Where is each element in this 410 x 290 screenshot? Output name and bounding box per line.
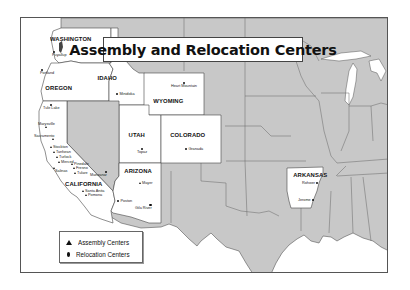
- site-marysville: Marysville: [38, 122, 55, 128]
- site-tanforan: Tanforan: [53, 150, 71, 154]
- site-fresno: Fresno: [73, 166, 88, 170]
- site-mayer: Mayer: [139, 181, 153, 185]
- relocation-dot-icon: [185, 148, 187, 150]
- site-stockton: Stockton: [50, 145, 68, 149]
- assembly-triangle-icon: [53, 151, 55, 153]
- site-tulare: Tulare: [74, 171, 88, 175]
- assembly-triangle-icon: [52, 138, 54, 140]
- site-granada: Granada: [185, 147, 203, 151]
- site-tule-lake: Tule Lake: [43, 104, 60, 110]
- site-rohwer: Rohwer: [302, 181, 318, 185]
- relocation-dot-icon: [117, 200, 119, 202]
- state-label-washington: WASHINGTON: [50, 36, 91, 42]
- state-label-utah: UTAH: [129, 132, 145, 138]
- assembly-triangle-icon: [50, 146, 52, 148]
- state-wyoming: [144, 73, 204, 115]
- assembly-triangle-icon: [45, 126, 47, 128]
- state-label-arizona: ARIZONA: [124, 168, 151, 174]
- state-label-california: CALIFORNIA: [65, 181, 102, 187]
- site-pomona: Pomona: [85, 193, 102, 197]
- state-label-wyoming: WYOMING: [153, 98, 183, 104]
- state-label-oregon: OREGON: [45, 85, 72, 91]
- assembly-triangle-icon: [74, 172, 76, 174]
- site-jerome: Jerome: [298, 198, 314, 202]
- state-label-colorado: COLORADO: [170, 132, 205, 138]
- site-sacramento: Sacramento: [34, 134, 54, 140]
- site-manzanar: Manzanar: [90, 171, 107, 177]
- relocation-dot-icon: [316, 182, 318, 184]
- map-title: Assembly and Relocation Centers: [69, 42, 337, 58]
- site-minidoka: Minidoka: [116, 92, 135, 96]
- site-turlock: Turlock: [56, 155, 71, 159]
- assembly-triangle-icon: [56, 156, 58, 158]
- state-oregon: [41, 61, 113, 101]
- assembly-triangle-icon: [85, 194, 87, 196]
- map-legend: Assembly Centers Relocation Centers: [59, 231, 143, 263]
- assembly-triangle-icon: [73, 167, 75, 169]
- legend-assembly-label: Assembly Centers: [78, 239, 129, 246]
- site-heart-mountain: Heart Mountain: [171, 82, 197, 88]
- assembly-triangle-icon: [71, 163, 73, 165]
- site-topaz: Topaz: [137, 148, 147, 154]
- legend-item-assembly: Assembly Centers: [66, 236, 136, 248]
- legend-item-relocation: Relocation Centers: [66, 248, 136, 260]
- site-salinas: Salinas: [53, 167, 67, 173]
- relocation-dot-icon: [116, 93, 118, 95]
- circle-icon: [67, 252, 71, 257]
- assembly-triangle-icon: [139, 182, 141, 184]
- relocation-dot-icon: [312, 199, 314, 201]
- site-poston: Poston: [117, 199, 132, 203]
- site-puyallup: Puyallup: [52, 51, 67, 57]
- state-colorado: [161, 115, 221, 163]
- triangle-icon: [66, 240, 72, 245]
- state-label-arkansas: ARKANSAS: [293, 172, 327, 178]
- state-label-idaho: IDAHO: [98, 75, 117, 81]
- legend-relocation-label: Relocation Centers: [76, 251, 130, 258]
- site-portland: Portland: [40, 69, 54, 75]
- map-title-box: Assembly and Relocation Centers: [103, 37, 303, 62]
- site-gila-river: Gila River: [135, 204, 152, 210]
- assembly-triangle-icon: [58, 161, 60, 163]
- assembly-triangle-icon: [82, 190, 84, 192]
